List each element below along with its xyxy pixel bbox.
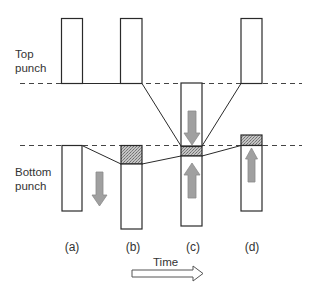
top-punch-label-line2: punch [15,62,46,74]
column-label-d: (d) [245,240,260,254]
column-d [241,19,262,212]
ejected-compact-d [241,135,262,146]
powder-compact-c [181,147,202,157]
powder-fill-b [121,146,142,165]
bottom-punch-path-c-d [202,146,241,157]
top-punch-path-b-c [142,84,181,147]
column-b [121,19,143,230]
bottom-punch-b [121,164,142,229]
bottom-punch-label-line1: Bottom [15,166,51,178]
column-label-c: (c) [186,240,200,254]
top-punch-d [241,19,262,84]
column-label-b: (b) [126,240,141,254]
time-arrow-icon [132,266,203,281]
column-a [62,19,108,212]
column-label-a: (a) [65,240,80,254]
top-punch-b [121,19,143,84]
top-punch-path-c-d [202,84,241,147]
bottom-punch-label-line2: punch [15,180,46,192]
top-punch-label-line1: Top [15,48,34,60]
time-label: Time [153,256,178,268]
column-c [181,83,202,226]
bottom-punch-path-a-b [82,146,121,165]
top-punch-a [62,19,83,84]
bottom-punch-path-b-c [142,156,181,164]
compaction-diagram: Top punch Bottom punch (a) (b) (c) (d) [0,0,312,298]
bottom-punch-a [62,146,82,212]
arrow-down-icon [92,172,107,206]
